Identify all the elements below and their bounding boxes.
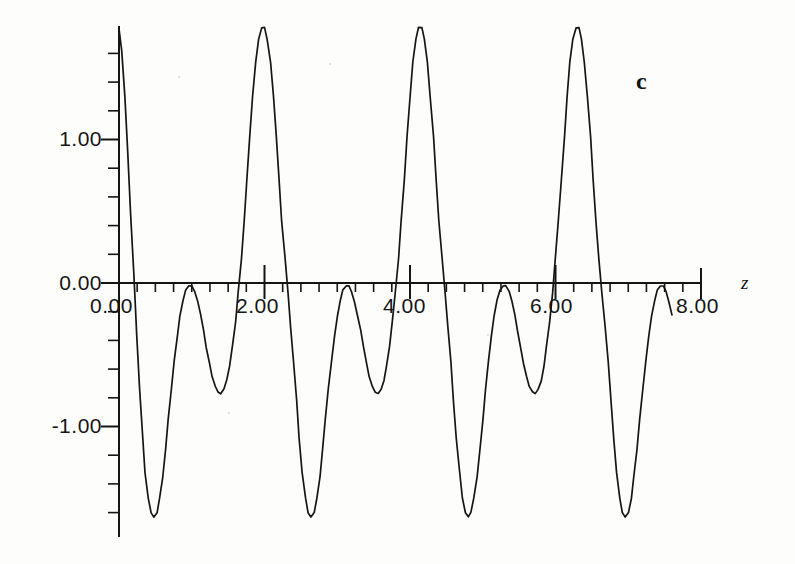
panel-label: c <box>636 68 647 95</box>
scan-speck <box>178 76 180 78</box>
y-tick-label-neg1: -1.00 <box>22 414 102 438</box>
plot-canvas <box>0 0 795 564</box>
x-tick-label-0: 0.00 <box>90 294 133 318</box>
scan-speck <box>487 334 489 336</box>
x-tick-label-2: 2.00 <box>236 294 279 318</box>
x-axis-label: z <box>741 272 748 294</box>
y-tick-group <box>101 53 119 512</box>
axis-group <box>101 26 702 537</box>
waveform-line <box>119 27 672 517</box>
x-tick-label-6: 6.00 <box>530 294 573 318</box>
x-tick-label-4: 4.00 <box>383 294 426 318</box>
scan-speck <box>228 412 230 414</box>
y-tick-label-1: 1.00 <box>30 127 102 151</box>
x-tick-label-8: 8.00 <box>676 294 719 318</box>
figure-panel: 1.00 0.00 -1.00 0.00 2.00 4.00 6.00 8.00… <box>0 0 795 564</box>
data-curve-group <box>119 27 672 517</box>
scan-speck <box>329 63 331 65</box>
y-tick-label-0: 0.00 <box>30 271 102 295</box>
